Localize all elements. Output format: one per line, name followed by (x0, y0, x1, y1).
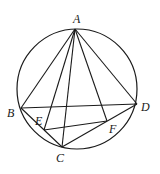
geometry-figure: A B C D E F (0, 0, 160, 174)
circumcircle (17, 29, 137, 149)
label-b: B (7, 106, 15, 120)
segment-ab (21, 29, 75, 108)
label-e: E (34, 114, 43, 128)
label-d: D (140, 100, 150, 114)
segment-ad (75, 29, 137, 104)
segment-af (75, 29, 107, 121)
segment-bd (21, 104, 137, 108)
label-a: A (72, 12, 81, 26)
segment-ac (62, 29, 75, 147)
segment-ef (44, 121, 107, 130)
circle-diagram: A B C D E F (0, 0, 160, 174)
segment-ae (44, 29, 75, 130)
label-f: F (108, 122, 117, 136)
label-c: C (56, 151, 65, 165)
